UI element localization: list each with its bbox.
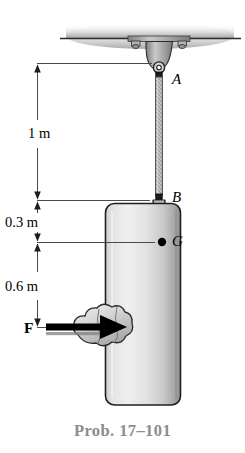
physics-problem-figure: A B G 1 m 0.3 m 0.6 m F Prob. 17–101	[0, 0, 245, 453]
center-of-mass-group	[158, 238, 166, 246]
dimension-label-0-6m: 0.6 m	[5, 279, 38, 294]
force-label-f: F	[24, 320, 33, 336]
figure-caption: Prob. 17–101	[0, 421, 245, 441]
label-point-a: A	[172, 72, 181, 87]
center-of-mass-dot	[158, 238, 166, 246]
hanging-block-group	[106, 204, 181, 406]
rod-group	[153, 77, 164, 212]
dimension-label-0-3m: 0.3 m	[5, 215, 38, 230]
label-point-b: B	[172, 190, 181, 205]
dimension-label-1m: 1 m	[28, 126, 50, 141]
label-center-of-mass: G	[172, 234, 183, 249]
